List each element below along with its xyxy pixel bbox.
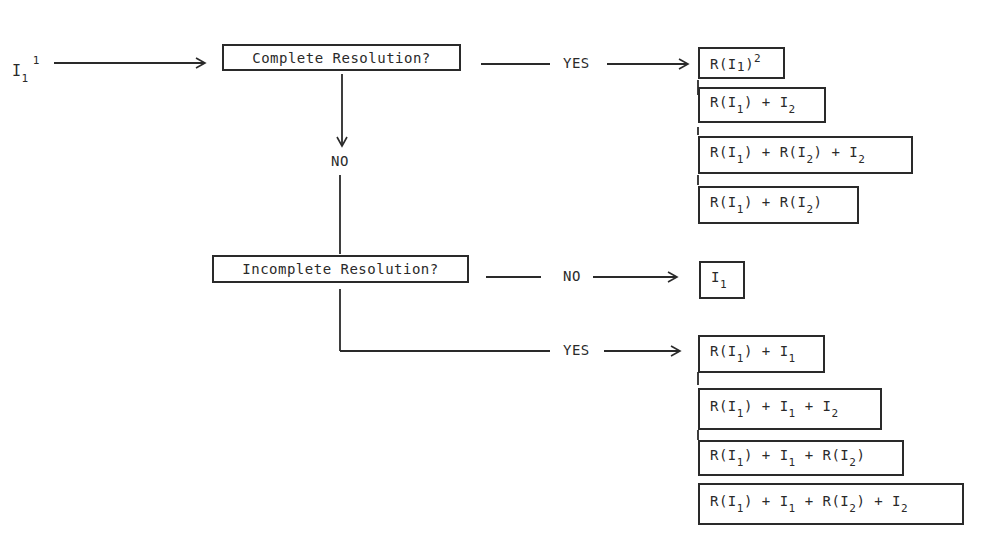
outcome-box: R(I1) + R(I2) + I2 [698,136,913,174]
branch-incomplete-yes: YES [563,342,590,358]
decision-incomplete-resolution: Incomplete Resolution? [212,255,469,283]
outcome-box: R(I1) + R(I2) [698,186,859,224]
decision-complete-resolution: Complete Resolution? [222,44,461,71]
outcome-formula: R(I1) + I1 + R(I2) [710,447,865,469]
outcome-formula: R(I1) + R(I2) + I2 [710,144,865,166]
branch-complete-no: NO [331,153,349,169]
outcome-box: R(I1)2 [698,47,785,79]
outcome-box: R(I1) + I1 + R(I2) [698,440,904,476]
outcome-box: R(I1) + I2 [698,87,826,123]
outcome-formula: R(I1) + I1 + I2 [710,398,839,420]
outcome-box: R(I1) + I1 + R(I2) + I2 [698,483,964,525]
input-base: I [12,62,22,80]
input-node: I11 [12,54,40,85]
outcome-box: I1 [699,261,745,299]
outcome-box: R(I1) + I1 [698,335,825,373]
decision-complete-label: Complete Resolution? [252,50,431,66]
outcome-box: R(I1) + I1 + I2 [698,388,882,430]
outcome-formula: R(I1) + I1 + R(I2) + I2 [710,493,908,515]
outcome-formula: R(I1) + I2 [710,94,796,116]
input-footnote: 1 [33,54,40,67]
branch-complete-yes: YES [563,55,590,71]
input-sub: 1 [22,72,29,85]
outcome-formula: R(I1) + R(I2) [710,194,823,216]
branch-incomplete-no: NO [563,268,581,284]
outcome-formula: R(I1)2 [710,52,761,74]
outcome-formula: I1 [711,269,727,291]
decision-incomplete-label: Incomplete Resolution? [242,261,438,277]
outcome-formula: R(I1) + I1 [710,343,796,365]
